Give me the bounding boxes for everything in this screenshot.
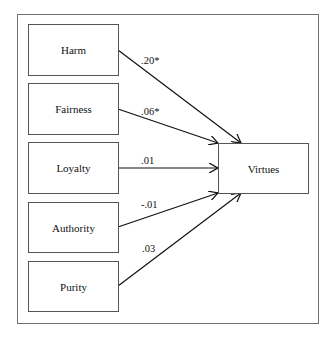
predictor-label: Harm xyxy=(61,44,86,56)
predictor-box-fairness: Fairness xyxy=(28,83,119,135)
outcome-label: Virtues xyxy=(248,163,280,175)
outcome-box-virtues: Virtues xyxy=(218,143,309,194)
coef-fairness: .06* xyxy=(141,106,159,117)
coef-authority: -.01 xyxy=(141,199,158,210)
predictor-label: Purity xyxy=(60,281,87,293)
coef-purity: .03 xyxy=(142,243,155,254)
predictor-box-purity: Purity xyxy=(28,261,119,312)
predictor-label: Authority xyxy=(52,222,95,234)
predictor-label: Fairness xyxy=(55,103,92,115)
predictor-box-loyalty: Loyalty xyxy=(28,142,119,194)
predictor-label: Loyalty xyxy=(56,162,90,174)
arrow-harm-virtues xyxy=(118,50,241,143)
predictor-box-authority: Authority xyxy=(28,202,119,253)
coef-harm: .20* xyxy=(141,55,159,66)
coef-loyalty: .01 xyxy=(141,155,154,166)
arrow-purity-virtues xyxy=(118,193,241,286)
predictor-box-harm: Harm xyxy=(28,24,119,76)
